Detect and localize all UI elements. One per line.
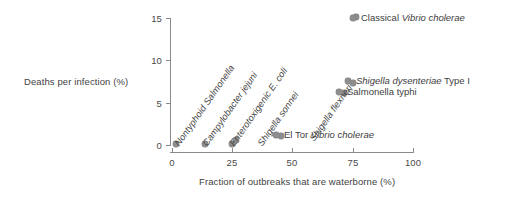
legend-label-el-tor-vibrio-cholerae: El Tor Vibrio cholerae [284,129,374,140]
x-tick-100 [413,148,414,152]
x-tick-label-0: 0 [157,157,187,168]
legend-dot-icon [273,132,279,138]
legend-label-salmonella-typhi: Salmonella typhi [347,86,417,97]
x-tick-75 [353,148,354,152]
legend-salmonella-typhi[interactable]: Salmonella typhi [336,86,417,97]
x-axis-line [170,152,414,153]
x-tick-0 [172,148,173,152]
legend-dot-icon [345,78,351,84]
y-tick-label-15: 15 [138,13,162,24]
x-tick-label-100: 100 [398,157,428,168]
legend-label-classical-vibrio-cholerae: Classical Vibrio cholerae [361,12,465,23]
x-tick-label-75: 75 [338,157,368,168]
y-tick-label-5: 5 [138,98,162,109]
x-tick-50 [292,148,293,152]
x-tick-label-25: 25 [217,157,247,168]
y-tick-label-10: 10 [138,55,162,66]
legend-el-tor-vibrio-cholerae[interactable]: El Tor Vibrio cholerae [273,129,374,140]
x-axis-title: Fraction of outbreaks that are waterborn… [199,176,395,187]
y-tick-0 [166,145,170,146]
y-tick-15 [166,18,170,19]
y-axis-line [170,18,171,146]
y-tick-5 [166,103,170,104]
legend-dot-icon [336,89,342,95]
legend-shigella-dysenteriae[interactable]: Shigella dysenteriae Type I [345,75,470,86]
y-tick-label-0: 0 [138,140,162,151]
x-tick-label-50: 50 [277,157,307,168]
legend-label-shigella-dysenteriae: Shigella dysenteriae Type I [356,75,470,86]
x-tick-25 [232,148,233,152]
legend-dot-icon [350,15,356,21]
legend-classical-vibrio-cholerae[interactable]: Classical Vibrio cholerae [350,12,465,23]
y-tick-10 [166,60,170,61]
scatter-chart: Deaths per infection (%) 15 10 5 0 0 25 … [0,0,506,200]
y-axis-title: Deaths per infection (%) [24,76,128,87]
